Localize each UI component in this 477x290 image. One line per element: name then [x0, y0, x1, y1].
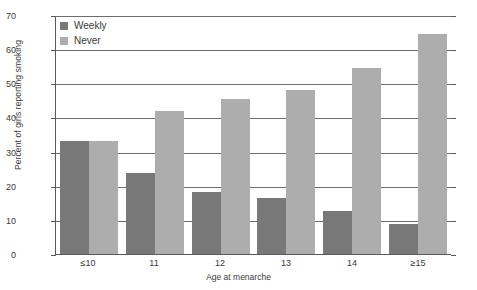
y-axis-tick-label: 70 — [0, 11, 16, 21]
bar-group — [319, 16, 385, 254]
bar-group — [56, 16, 122, 254]
bar — [126, 173, 155, 254]
x-axis-title: Age at menarche — [0, 272, 477, 282]
x-axis-tick-label: 14 — [319, 258, 385, 268]
y-axis-tick-label: 40 — [0, 113, 16, 123]
bar-group — [188, 16, 254, 254]
legend-label: Weekly — [74, 20, 107, 31]
y-axis-tick-mark-right — [451, 118, 456, 119]
y-axis-tick-label: 10 — [0, 216, 16, 226]
y-axis-tick-label: 60 — [0, 45, 16, 55]
bar — [352, 68, 381, 254]
bar — [221, 99, 250, 254]
bar — [323, 211, 352, 254]
y-axis-tick-mark-right — [451, 255, 456, 256]
bar — [286, 90, 315, 254]
y-axis-tick-label: 50 — [0, 79, 16, 89]
bar — [192, 192, 221, 254]
bar — [155, 111, 184, 254]
y-axis-tick-mark — [51, 255, 56, 256]
x-axis-tick-labels: ≤1011121314≥15 — [55, 258, 451, 268]
legend-swatch-icon — [60, 22, 68, 30]
legend-item: Never — [60, 34, 107, 47]
bar-group — [122, 16, 188, 254]
bar-chart: Percent of girls reporting smoking 01020… — [0, 0, 477, 290]
bar — [89, 141, 118, 254]
y-axis-tick-mark-right — [451, 16, 456, 17]
y-axis-tick-label: 30 — [0, 148, 16, 158]
y-axis-tick-mark-right — [451, 153, 456, 154]
y-axis-title: Percent of girls reporting smoking — [13, 5, 23, 205]
y-axis-tick-label: 0 — [0, 250, 16, 260]
x-axis-tick-label: ≤10 — [55, 258, 121, 268]
x-axis-tick-label: ≥15 — [385, 258, 451, 268]
bar-group — [253, 16, 319, 254]
y-axis-tick-label: 20 — [0, 182, 16, 192]
x-axis-tick-label: 11 — [121, 258, 187, 268]
x-axis-tick-label: 12 — [187, 258, 253, 268]
bar — [389, 224, 418, 254]
legend-label: Never — [74, 35, 101, 46]
bar — [257, 198, 286, 254]
bar-group — [385, 16, 451, 254]
x-axis-tick-label: 13 — [253, 258, 319, 268]
y-axis-tick-mark-right — [451, 84, 456, 85]
legend-item: Weekly — [60, 19, 107, 32]
legend-swatch-icon — [60, 37, 68, 45]
legend: Weekly Never — [60, 19, 107, 49]
bar — [418, 34, 447, 254]
bar — [60, 141, 89, 254]
plot-area — [55, 16, 451, 255]
y-axis-tick-mark-right — [451, 187, 456, 188]
bar-groups — [56, 16, 451, 254]
y-axis-tick-mark-right — [451, 50, 456, 51]
y-axis-tick-mark-right — [451, 221, 456, 222]
